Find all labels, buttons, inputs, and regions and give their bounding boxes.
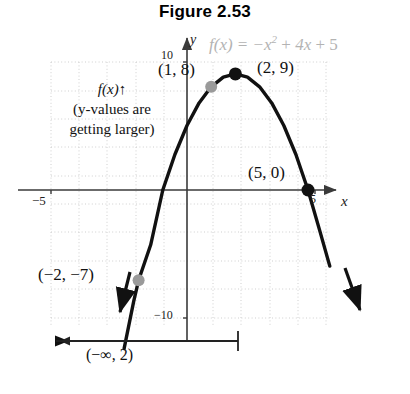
point-marker-neg2-neg7 [133, 274, 145, 286]
increasing-note-line3: getting larger) [69, 121, 154, 137]
point-label-2-9: (2, 9) [257, 58, 294, 78]
equation-label: f(x) = −x2 + 4x + 5 [209, 33, 338, 55]
interval-bar [56, 331, 238, 351]
increasing-annotation: f(x)↑ (y-values are getting larger) [36, 79, 188, 139]
increasing-note-line2: (y-values are [73, 101, 151, 117]
x-tick-label-neg5: −5 [32, 193, 46, 209]
curve-arrow-left [120, 272, 130, 312]
figure-container: Figure 2.53 [0, 0, 410, 394]
x-tick-label-5: 5 [310, 192, 316, 207]
y-tick-label-neg10: −10 [154, 308, 173, 323]
point-marker-1-8 [205, 81, 217, 93]
x-axis-label: x [341, 193, 348, 210]
point-label-neg2-neg7: (−2, −7) [38, 265, 94, 285]
point-marker-2-9 [229, 67, 242, 80]
increasing-fx-text: f(x) [98, 81, 119, 97]
graph-canvas [0, 0, 410, 394]
point-label-1-8: (1, 8) [158, 60, 195, 80]
point-label-5-0: (5, 0) [248, 163, 285, 183]
up-arrow-icon: ↑ [119, 81, 127, 97]
curve-arrow-right [345, 268, 360, 310]
y-axis-label: y [190, 32, 196, 48]
interval-notation-label: (−∞, 2) [86, 346, 133, 364]
